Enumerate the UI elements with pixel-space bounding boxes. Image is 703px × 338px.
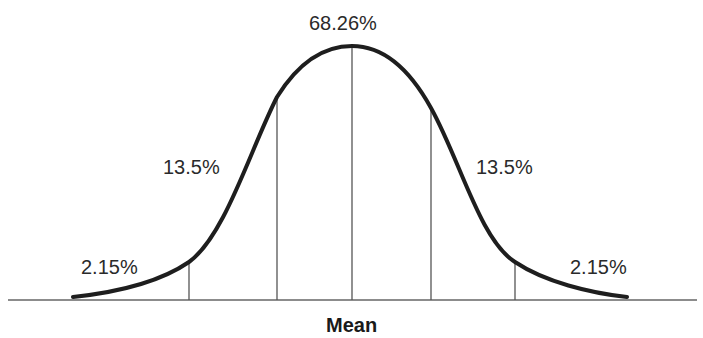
right-tail-label: 2.15% (570, 257, 627, 277)
right-inner-region-label: 13.5% (476, 157, 533, 177)
left-tail-label: 2.15% (81, 257, 138, 277)
center-region-label: 68.26% (309, 13, 377, 33)
left-inner-region-label: 13.5% (163, 157, 220, 177)
bell-curve (73, 46, 627, 297)
mean-axis-label: Mean (326, 315, 377, 335)
bell-curve-diagram (0, 0, 703, 338)
